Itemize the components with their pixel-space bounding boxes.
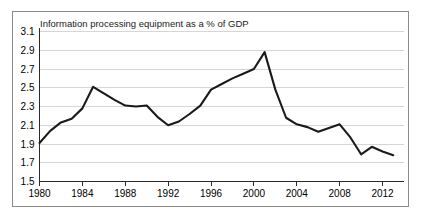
axis-ticks xyxy=(40,182,383,186)
x-tick-label: 1996 xyxy=(200,188,223,199)
y-tick-label: 1.9 xyxy=(21,139,35,150)
chart-title: Information processing equipment as a % … xyxy=(40,18,249,29)
x-tick-label: 2004 xyxy=(286,188,309,199)
x-tick-label: 2008 xyxy=(329,188,352,199)
x-tick-label: 1992 xyxy=(157,188,180,199)
gridlines xyxy=(40,32,405,163)
y-tick-label: 2.9 xyxy=(21,45,35,56)
data-series-line xyxy=(40,52,394,155)
line-chart: 1.51.71.92.12.32.52.72.93.1 198019841988… xyxy=(0,0,421,220)
x-tick-label: 2000 xyxy=(243,188,266,199)
x-tick-label: 1980 xyxy=(28,188,51,199)
y-tick-label: 2.1 xyxy=(21,120,35,131)
y-tick-label: 2.7 xyxy=(21,64,35,75)
y-tick-label: 1.7 xyxy=(21,157,35,168)
y-tick-label: 2.3 xyxy=(21,101,35,112)
y-tick-label: 2.5 xyxy=(21,82,35,93)
x-tick-label: 2012 xyxy=(371,188,394,199)
y-tick-label: 3.1 xyxy=(21,26,35,37)
x-tick-label: 1988 xyxy=(114,188,137,199)
chart-figure: 1.51.71.92.12.32.52.72.93.1 198019841988… xyxy=(0,0,421,220)
x-axis-tick-labels: 198019841988199219962000200420082012 xyxy=(28,188,394,199)
x-tick-label: 1984 xyxy=(71,188,94,199)
y-axis-tick-labels: 1.51.71.92.12.32.52.72.93.1 xyxy=(21,26,35,187)
y-tick-label: 1.5 xyxy=(21,176,35,187)
